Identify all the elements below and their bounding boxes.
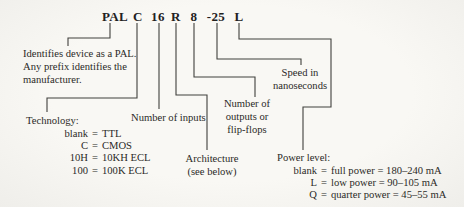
- technology-key: blank: [38, 128, 88, 140]
- pal-part-numbering-diagram: PAL C 16 R 8 -25 L Identifies device as …: [0, 0, 464, 207]
- part-token-25: -25: [207, 9, 226, 25]
- speed-line: Speed in: [273, 66, 327, 79]
- technology-key: 10H: [38, 152, 88, 164]
- power-row: blank=full power = 180–240 mA: [265, 165, 446, 177]
- technology-key: 100: [38, 165, 88, 177]
- equals-sign: =: [92, 140, 98, 152]
- part-token-16: 16: [151, 9, 165, 25]
- equals-sign: =: [92, 165, 98, 177]
- technology-key: C: [38, 140, 88, 152]
- power-key: blank: [265, 165, 317, 177]
- pal-description-line: Identifies device as a PAL.: [23, 47, 136, 60]
- equals-sign: =: [321, 165, 327, 177]
- technology-value: 100K ECL: [102, 165, 148, 177]
- technology-row: 10H=10KH ECL: [38, 152, 151, 164]
- power-key: L: [265, 177, 317, 189]
- callout-pal-description: Identifies device as a PAL. Any prefix i…: [23, 47, 136, 87]
- leader-line-pal-prefix: [68, 23, 110, 46]
- power-level-title: Power level:: [277, 151, 446, 165]
- technology-row: 100=100K ECL: [38, 165, 151, 177]
- callout-number-of-inputs: Number of inputs: [131, 111, 206, 124]
- architecture-line: Architecture: [186, 152, 239, 165]
- equals-sign: =: [92, 152, 98, 164]
- part-token-8: 8: [191, 9, 198, 25]
- part-token-pal: PAL: [102, 9, 128, 25]
- technology-value: TTL: [102, 128, 121, 140]
- technology-table: blank=TTL C=CMOS 10H=10KH ECL 100=100K E…: [38, 128, 151, 178]
- equals-sign: =: [321, 189, 327, 201]
- power-value: low power = 90–105 mA: [331, 177, 438, 189]
- pal-description-line: manufacturer.: [23, 73, 136, 86]
- pal-description-line: Any prefix identifies the: [23, 60, 136, 73]
- outputs-line: flip-flops: [224, 124, 270, 137]
- callout-speed: Speed in nanoseconds: [273, 66, 327, 92]
- part-token-c: C: [133, 9, 143, 25]
- callout-outputs-flipflops: Number of outputs or flip-flops: [224, 98, 270, 136]
- leader-line-speed: [217, 23, 301, 65]
- power-row: L=low power = 90–105 mA: [265, 177, 446, 189]
- power-value: full power = 180–240 mA: [331, 165, 442, 177]
- equals-sign: =: [321, 177, 327, 189]
- leader-line-architecture: [176, 23, 207, 150]
- technology-value: CMOS: [102, 140, 132, 152]
- power-key: Q: [265, 189, 317, 201]
- power-level-table: blank=full power = 180–240 mA L=low powe…: [265, 165, 446, 202]
- callout-architecture: Architecture (see below): [186, 152, 239, 178]
- outputs-line: Number of: [224, 98, 270, 111]
- equals-sign: =: [92, 128, 98, 140]
- technology-row: blank=TTL: [38, 128, 151, 140]
- leader-line-outputs: [194, 23, 255, 97]
- power-value: quarter power = 45–55 mA: [331, 189, 446, 201]
- power-row: Q=quarter power = 45–55 mA: [265, 189, 446, 201]
- part-token-l: L: [234, 9, 243, 25]
- outputs-line: outputs or: [224, 111, 270, 124]
- architecture-line: (see below): [186, 165, 239, 178]
- part-token-r: R: [171, 9, 181, 25]
- speed-line: nanoseconds: [273, 79, 327, 92]
- callout-power-level: Power level: blank=full power = 180–240 …: [265, 151, 446, 202]
- technology-row: C=CMOS: [38, 140, 151, 152]
- technology-value: 10KH ECL: [102, 152, 151, 164]
